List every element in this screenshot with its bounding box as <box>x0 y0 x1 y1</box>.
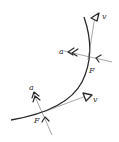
motion-diagram: v F a v F a <box>0 0 119 142</box>
upper-force-arrowhead-icon <box>96 55 101 62</box>
lower-force-line <box>33 92 52 135</box>
upper-velocity-arrowhead-icon <box>91 13 99 21</box>
upper-acceleration-label: a <box>59 47 64 56</box>
lower-velocity-arrowhead-icon <box>83 93 92 101</box>
upper-force-line <box>64 51 112 62</box>
lower-acceleration-label: a <box>29 83 34 92</box>
upper-force-label: F <box>88 66 95 75</box>
upper-velocity-label: v <box>102 12 107 21</box>
lower-acceleration-arrowhead-icon-2 <box>33 96 40 102</box>
trajectory-curve <box>11 17 90 120</box>
lower-point-vectors: v F a <box>29 83 98 135</box>
lower-force-arrowhead-icon <box>42 117 49 122</box>
lower-velocity-line <box>46 96 86 111</box>
lower-force-label: F <box>33 116 40 125</box>
lower-velocity-label: v <box>93 95 98 104</box>
